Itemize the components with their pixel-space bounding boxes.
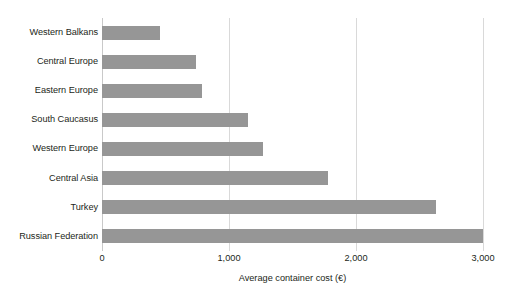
- category-label-row: South Caucasus: [0, 105, 98, 134]
- bar-row: [102, 47, 483, 76]
- gridline-3000: [483, 18, 484, 251]
- bar-row: [102, 76, 483, 105]
- plot-area: [102, 18, 483, 251]
- bar-row: [102, 193, 483, 222]
- bar: [102, 26, 160, 40]
- bars-container: [102, 18, 483, 251]
- bar-row: [102, 164, 483, 193]
- value-axis-tick-labels: 01,0002,0003,000: [102, 254, 483, 268]
- category-label-row: Western Balkans: [0, 18, 98, 47]
- bar: [102, 142, 263, 156]
- bar: [102, 229, 483, 243]
- category-label: Turkey: [71, 203, 98, 212]
- category-label-row: Eastern Europe: [0, 76, 98, 105]
- x-tick-label: 3,000: [472, 254, 495, 263]
- bar: [102, 200, 436, 214]
- value-axis-title: Average container cost (€): [102, 274, 483, 283]
- bar: [102, 113, 248, 127]
- category-label-row: Turkey: [0, 193, 98, 222]
- category-axis-labels: Western BalkansCentral EuropeEastern Eur…: [0, 18, 98, 251]
- category-label: South Caucasus: [31, 115, 98, 124]
- category-label-row: Central Asia: [0, 164, 98, 193]
- x-tick-label: 0: [99, 254, 104, 263]
- category-label: Western Europe: [32, 144, 98, 153]
- category-label: Russian Federation: [19, 232, 98, 241]
- category-label-row: Western Europe: [0, 135, 98, 164]
- bar-row: [102, 222, 483, 251]
- x-tick-label: 1,000: [218, 254, 241, 263]
- category-label: Eastern Europe: [35, 86, 98, 95]
- category-label: Central Europe: [37, 57, 98, 66]
- category-label-row: Central Europe: [0, 47, 98, 76]
- bar: [102, 171, 328, 185]
- bar-row: [102, 18, 483, 47]
- bar: [102, 55, 196, 69]
- bar: [102, 84, 202, 98]
- category-label: Central Asia: [49, 174, 98, 183]
- bar-row: [102, 105, 483, 134]
- bar-row: [102, 135, 483, 164]
- horizontal-bar-chart: Western BalkansCentral EuropeEastern Eur…: [0, 0, 508, 301]
- category-label: Western Balkans: [29, 28, 98, 37]
- category-label-row: Russian Federation: [0, 222, 98, 251]
- x-tick-label: 2,000: [345, 254, 368, 263]
